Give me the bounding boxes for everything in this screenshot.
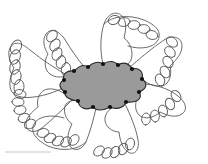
arm-attachment-node xyxy=(76,99,80,103)
figure-container xyxy=(0,0,208,164)
arm-attachment-node xyxy=(72,69,76,73)
arm-attachment-node xyxy=(137,90,141,94)
arm-attachment-node xyxy=(62,78,66,82)
arm-attachment-node xyxy=(86,65,90,69)
arm-attachment-node xyxy=(101,62,105,66)
arm-attachment-node xyxy=(140,77,144,81)
arm-attachment-node xyxy=(91,105,95,109)
arm-attachment-node xyxy=(116,63,120,67)
arm-attachment-node xyxy=(108,105,112,109)
arm-attachment-node xyxy=(63,90,67,94)
arm-attachment-node xyxy=(124,100,128,104)
cell-diagram-svg xyxy=(0,0,208,164)
arm-attachment-node xyxy=(130,67,134,71)
